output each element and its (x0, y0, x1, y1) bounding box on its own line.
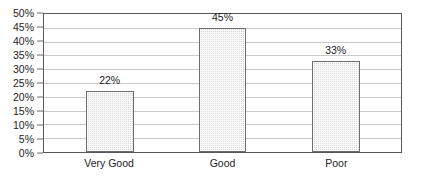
bar-chart: 50% 45% 40% 35% 30% 25% 20% 15% 10% 5% 0… (0, 0, 422, 186)
bar-value-label: 45% (212, 12, 233, 23)
x-tick-label-good: Good (210, 158, 236, 169)
bar-value-label: 22% (99, 75, 120, 86)
y-tick-label: 20% (13, 92, 34, 103)
bar-group-good: 45% (199, 14, 247, 152)
y-tick-label: 0% (19, 148, 34, 159)
y-tick-label: 35% (13, 50, 34, 61)
y-tick-label: 25% (13, 78, 34, 89)
y-tick-label: 45% (13, 22, 34, 33)
y-tick-label: 30% (13, 64, 34, 75)
bar-value-label: 33% (325, 45, 346, 56)
bar-good[interactable] (199, 28, 247, 152)
bar-very-good[interactable] (86, 91, 134, 152)
y-tick-label: 15% (13, 106, 34, 117)
bars-layer: 22% 45% 33% (44, 14, 401, 152)
y-axis: 50% 45% 40% 35% 30% 25% 20% 15% 10% 5% 0… (0, 13, 34, 153)
bar-group-very-good: 22% (86, 14, 134, 152)
bar-group-poor: 33% (312, 14, 360, 152)
y-tick-label: 5% (19, 134, 34, 145)
x-tick-label-poor: Poor (325, 158, 347, 169)
y-tick-label: 10% (13, 120, 34, 131)
bar-poor[interactable] (312, 61, 360, 152)
x-tick-label-very-good: Very Good (84, 158, 134, 169)
x-axis: Very Good Good Poor (43, 158, 402, 178)
y-tick-label: 50% (13, 8, 34, 19)
y-tick-label: 40% (13, 36, 34, 47)
plot-area: 22% 45% 33% (43, 13, 402, 153)
